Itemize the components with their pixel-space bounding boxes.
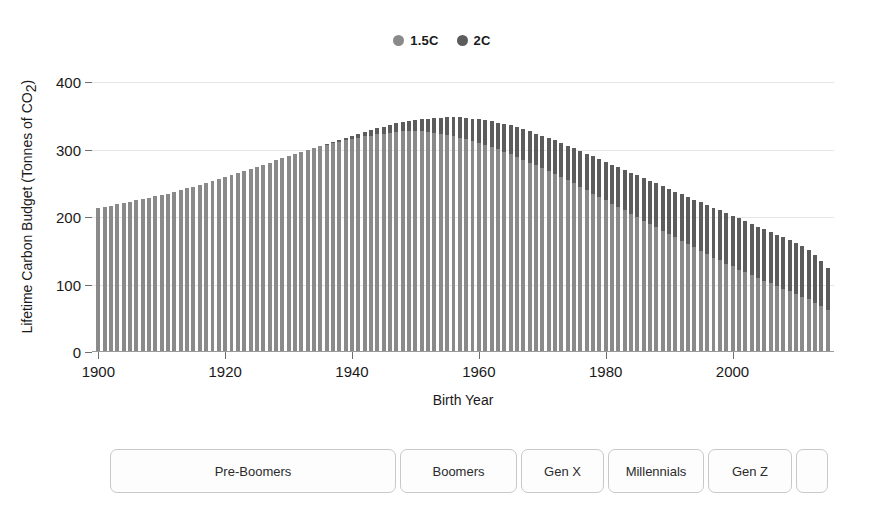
bar-group[interactable] (572, 62, 576, 352)
bar-group[interactable] (96, 62, 100, 352)
bar-group[interactable] (794, 62, 798, 352)
bar-group[interactable] (344, 62, 348, 352)
bar-group[interactable] (635, 62, 639, 352)
bar-group[interactable] (382, 62, 386, 352)
bar-group[interactable] (788, 62, 792, 352)
bar-group[interactable] (350, 62, 354, 352)
bar-group[interactable] (616, 62, 620, 352)
bar-group[interactable] (566, 62, 570, 352)
bar-group[interactable] (191, 62, 195, 352)
bar-group[interactable] (185, 62, 189, 352)
bar-group[interactable] (712, 62, 716, 352)
bar-group[interactable] (268, 62, 272, 352)
bar-group[interactable] (737, 62, 741, 352)
generation-button-gen-x[interactable]: Gen X (521, 449, 604, 493)
legend-item-1-5C[interactable]: 1.5C (393, 33, 438, 48)
bar-group[interactable] (483, 62, 487, 352)
bar-group[interactable] (534, 62, 538, 352)
bar-group[interactable] (426, 62, 430, 352)
bar-group[interactable] (597, 62, 601, 352)
bar-group[interactable] (179, 62, 183, 352)
bar-group[interactable] (718, 62, 722, 352)
bar-group[interactable] (388, 62, 392, 352)
generation-button-pre-boomers[interactable]: Pre-Boomers (110, 449, 396, 493)
bar-group[interactable] (769, 62, 773, 352)
bar-group[interactable] (242, 62, 246, 352)
bar-group[interactable] (445, 62, 449, 352)
bar-group[interactable] (699, 62, 703, 352)
bar-group[interactable] (775, 62, 779, 352)
bar-group[interactable] (604, 62, 608, 352)
bar-group[interactable] (198, 62, 202, 352)
bar-group[interactable] (673, 62, 677, 352)
bar-group[interactable] (667, 62, 671, 352)
bar-group[interactable] (172, 62, 176, 352)
bar-group[interactable] (521, 62, 525, 352)
bar-group[interactable] (724, 62, 728, 352)
bar-group[interactable] (293, 62, 297, 352)
bar-group[interactable] (255, 62, 259, 352)
bar-group[interactable] (654, 62, 658, 352)
bar-group[interactable] (204, 62, 208, 352)
bar-group[interactable] (103, 62, 107, 352)
bar-group[interactable] (502, 62, 506, 352)
bar-group[interactable] (122, 62, 126, 352)
bar-group[interactable] (452, 62, 456, 352)
bar-group[interactable] (648, 62, 652, 352)
bar-group[interactable] (705, 62, 709, 352)
bar-group[interactable] (109, 62, 113, 352)
bar-group[interactable] (141, 62, 145, 352)
bar-group[interactable] (686, 62, 690, 352)
bar-group[interactable] (223, 62, 227, 352)
bar-group[interactable] (623, 62, 627, 352)
generation-button-boomers[interactable]: Boomers (400, 449, 517, 493)
bar-group[interactable] (578, 62, 582, 352)
bar-group[interactable] (661, 62, 665, 352)
bar-group[interactable] (249, 62, 253, 352)
bar-group[interactable] (420, 62, 424, 352)
bar-group[interactable] (496, 62, 500, 352)
bar-group[interactable] (211, 62, 215, 352)
bar-group[interactable] (458, 62, 462, 352)
bar-group[interactable] (274, 62, 278, 352)
bar-group[interactable] (610, 62, 614, 352)
bar-group[interactable] (477, 62, 481, 352)
bar-group[interactable] (540, 62, 544, 352)
bar-group[interactable] (280, 62, 284, 352)
bar-group[interactable] (762, 62, 766, 352)
bar-group[interactable] (750, 62, 754, 352)
bar-group[interactable] (369, 62, 373, 352)
bar-group[interactable] (553, 62, 557, 352)
bar-group[interactable] (325, 62, 329, 352)
bar-group[interactable] (318, 62, 322, 352)
generation-button-gen-z[interactable]: Gen Z (708, 449, 792, 493)
bar-group[interactable] (363, 62, 367, 352)
generation-button-blank[interactable] (796, 449, 828, 493)
bar-group[interactable] (115, 62, 119, 352)
bar-group[interactable] (731, 62, 735, 352)
bar-group[interactable] (591, 62, 595, 352)
bar-group[interactable] (375, 62, 379, 352)
bar-group[interactable] (585, 62, 589, 352)
bar-group[interactable] (153, 62, 157, 352)
bar-group[interactable] (236, 62, 240, 352)
bar-group[interactable] (800, 62, 804, 352)
generation-selector[interactable]: Pre-BoomersBoomersGen XMillennialsGen Z (110, 449, 828, 493)
bar-group[interactable] (528, 62, 532, 352)
bar-group[interactable] (147, 62, 151, 352)
bar-group[interactable] (128, 62, 132, 352)
bar-group[interactable] (692, 62, 696, 352)
generation-button-millennials[interactable]: Millennials (608, 449, 704, 493)
bar-group[interactable] (217, 62, 221, 352)
bar-group[interactable] (439, 62, 443, 352)
bar-group[interactable] (356, 62, 360, 352)
bar-group[interactable] (629, 62, 633, 352)
bar-group[interactable] (394, 62, 398, 352)
bar-group[interactable] (464, 62, 468, 352)
bar-group[interactable] (261, 62, 265, 352)
bar-group[interactable] (337, 62, 341, 352)
bar-group[interactable] (230, 62, 234, 352)
bar-group[interactable] (756, 62, 760, 352)
bar-group[interactable] (547, 62, 551, 352)
bar-group[interactable] (515, 62, 519, 352)
